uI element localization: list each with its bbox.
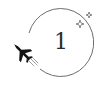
step-badge: 1 xyxy=(0,0,100,92)
airplane-icon xyxy=(9,39,36,66)
step-number: 1 xyxy=(48,28,74,56)
